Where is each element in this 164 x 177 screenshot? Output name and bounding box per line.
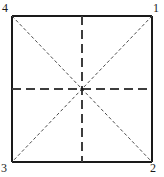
center-point xyxy=(80,87,83,90)
figure-container: 1 2 3 4 xyxy=(0,0,164,177)
corner-label-4: 4 xyxy=(2,2,8,14)
corner-label-3: 3 xyxy=(1,162,7,174)
corner-label-1: 1 xyxy=(153,2,159,14)
square-diagram-svg xyxy=(0,0,164,177)
corner-label-2: 2 xyxy=(150,162,156,174)
